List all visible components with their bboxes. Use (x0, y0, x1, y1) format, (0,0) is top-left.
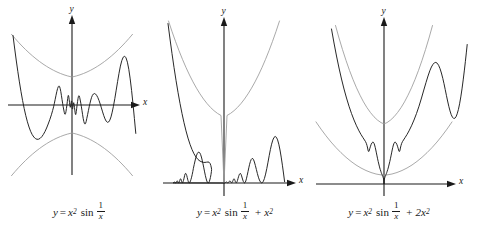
caption-2-extra-exponent: 2 (269, 208, 273, 215)
caption-3-fraction: 1 x (392, 201, 401, 221)
panel-1-y-axis (69, 15, 75, 175)
panel-3-y-axis (381, 17, 387, 196)
caption-3-extra: + 2x (405, 207, 426, 218)
panel-3-curve (332, 29, 468, 184)
caption-1-sin: sin (80, 207, 95, 218)
panel-3-x-axis-label: x (458, 176, 464, 186)
caption-3-sin: sin (375, 207, 390, 218)
panel-1-y-axis-label: y (69, 4, 75, 14)
panel-2-plot: x y (160, 0, 310, 231)
panel-2-y-axis (221, 17, 227, 196)
caption-2-equals: = (202, 207, 212, 218)
caption-1-fraction: 1 x (97, 201, 106, 221)
caption-3-exponent: 2 (368, 208, 372, 215)
caption-2-frac-numerator: 1 (241, 201, 250, 211)
caption-2-frac-denominator: x (241, 212, 249, 222)
caption-1-exponent: 2 (73, 208, 77, 215)
caption-1-equals: = (58, 207, 68, 218)
y-axis-arrowhead (221, 17, 227, 26)
caption-3-equals: = (353, 207, 363, 218)
x-axis-arrowhead (131, 102, 140, 108)
panel-1-x-axis-label: x (142, 97, 148, 107)
y-axis-arrowhead (69, 15, 75, 24)
panel-1-plot: x y (0, 0, 160, 231)
panel-3-x-axis (316, 181, 456, 187)
y-axis-arrowhead (381, 17, 387, 26)
caption-3-extra-exponent: 2 (426, 208, 430, 215)
panel-2-caption: y = x2 sin 1 x + x2 (176, 200, 294, 224)
caption-1-frac-denominator: x (97, 212, 105, 222)
caption-1-frac-numerator: 1 (97, 201, 106, 211)
panel-3-y-axis-label: y (381, 6, 387, 16)
three-panel-figure: x y x y (0, 0, 477, 231)
x-axis-arrowhead (287, 180, 296, 186)
caption-2-exponent: 2 (217, 208, 221, 215)
caption-2-extra: + x (254, 207, 269, 218)
panel-2-x-axis-label: x (298, 175, 304, 185)
panel-2-curve (168, 24, 285, 184)
caption-3-frac-numerator: 1 (392, 201, 401, 211)
caption-2-sin: sin (224, 207, 239, 218)
caption-2-fraction: 1 x (241, 201, 250, 221)
x-axis-arrowhead (447, 181, 456, 187)
panel-2-y-axis-label: y (221, 6, 227, 16)
caption-3-frac-denominator: x (392, 212, 400, 222)
panel-1-caption: y = x2 sin 1 x (28, 200, 132, 224)
panel-3-plot: x y (310, 0, 477, 231)
panel-3-caption: y = x2 sin 1 x + 2x2 (326, 200, 452, 224)
